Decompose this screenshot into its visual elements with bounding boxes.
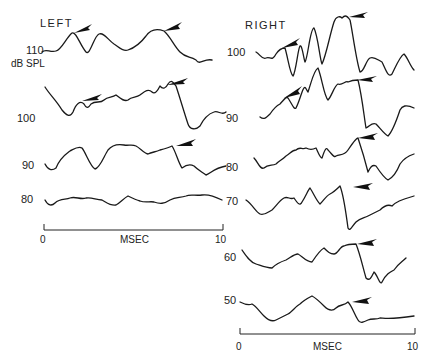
left-axis-end: 10 (215, 234, 227, 245)
left-axis-start: 0 (40, 234, 46, 245)
left-level-90: 90 (22, 159, 34, 171)
right-level-90: 90 (226, 112, 238, 124)
right-level-60: 60 (224, 251, 236, 263)
left-trace-90 (45, 139, 226, 175)
right-trace-60 (242, 239, 406, 283)
right-panel-title: RIGHT (245, 19, 287, 31)
left-level-80: 80 (21, 193, 33, 205)
right-trace-80 (254, 133, 414, 180)
right-axis-end: 10 (407, 341, 419, 352)
right-level-70: 70 (226, 195, 238, 207)
unit-label: dB SPL (11, 58, 45, 69)
right-level-50: 50 (224, 294, 236, 306)
left-level-110: 110 (26, 44, 44, 56)
abr-figure: LEFT 110 dB SPL 100 90 80 0 MSEC 10 RIGH… (0, 0, 430, 359)
right-time-axis: 0 MSEC 10 (236, 328, 419, 352)
right-level-80: 80 (226, 161, 238, 173)
right-axis-label: MSEC (313, 341, 342, 352)
left-trace-100 (45, 78, 226, 129)
right-trace-90 (260, 68, 414, 136)
right-trace-70 (246, 183, 414, 229)
left-trace-80 (45, 195, 222, 205)
left-axis-label: MSEC (120, 234, 149, 245)
left-level-100: 100 (17, 112, 35, 124)
right-level-100: 100 (227, 46, 245, 58)
right-axis-start: 0 (236, 341, 242, 352)
waveform-plot: LEFT 110 dB SPL 100 90 80 0 MSEC 10 RIGH… (0, 0, 430, 359)
left-time-axis: 0 MSEC 10 (40, 224, 227, 245)
right-trace-50 (240, 296, 414, 322)
left-panel-title: LEFT (40, 17, 73, 29)
